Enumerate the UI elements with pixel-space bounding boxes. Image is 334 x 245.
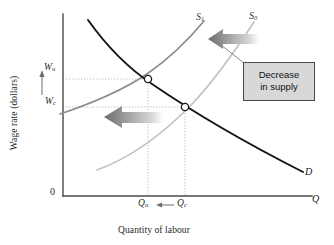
chart-canvas — [0, 0, 334, 245]
wage-change-arrow — [39, 70, 44, 95]
curve-label-s0-sub: 0 — [254, 14, 257, 21]
y-axis-title: Wage rate (dollars) — [9, 48, 19, 178]
guide-lines — [63, 79, 185, 196]
x-tick-qu-main: Q — [138, 198, 145, 208]
equilibrium-point-union — [144, 75, 151, 82]
equilibrium-point-competitive — [181, 103, 188, 110]
x-axis-title: Quantity of labour — [118, 225, 190, 235]
x-tick-qc-main: Q — [177, 198, 184, 208]
y-tick-label-wu: Wu — [44, 62, 55, 72]
y-tick-wu-main: W — [44, 62, 52, 72]
curve-label-d: D — [305, 166, 312, 177]
curve-label-s0: S0 — [249, 10, 257, 21]
x-tick-qu-sub: u — [145, 201, 148, 208]
x-tick-label-qu: Qu — [138, 198, 148, 208]
y-tick-wc-main: W — [45, 96, 53, 106]
origin-label: 0 — [50, 186, 55, 197]
quantity-change-arrow — [156, 202, 174, 207]
shift-arrow-lower — [104, 106, 163, 128]
decrease-in-supply-callout: Decrease in supply — [243, 62, 315, 101]
y-tick-wc-sub: c — [53, 99, 56, 106]
x-tick-qc-sub: c — [184, 201, 187, 208]
x-tick-label-qc: Qc — [177, 198, 187, 208]
y-tick-wu-sub: u — [52, 65, 55, 72]
curve-s1 — [60, 21, 204, 114]
curve-label-s1-sub: 1 — [201, 15, 204, 22]
x-axis-end-label: Q — [312, 193, 319, 204]
y-tick-label-wc: Wc — [45, 96, 56, 106]
curve-label-s1: S1 — [196, 11, 204, 22]
shift-arrow-upper — [208, 29, 259, 49]
callout-line-2: in supply — [248, 81, 310, 93]
supply-demand-chart: Wage rate (dollars) Quantity of labour 0… — [0, 0, 334, 245]
curve-s0 — [97, 22, 254, 170]
callout-line-1: Decrease — [248, 69, 310, 81]
